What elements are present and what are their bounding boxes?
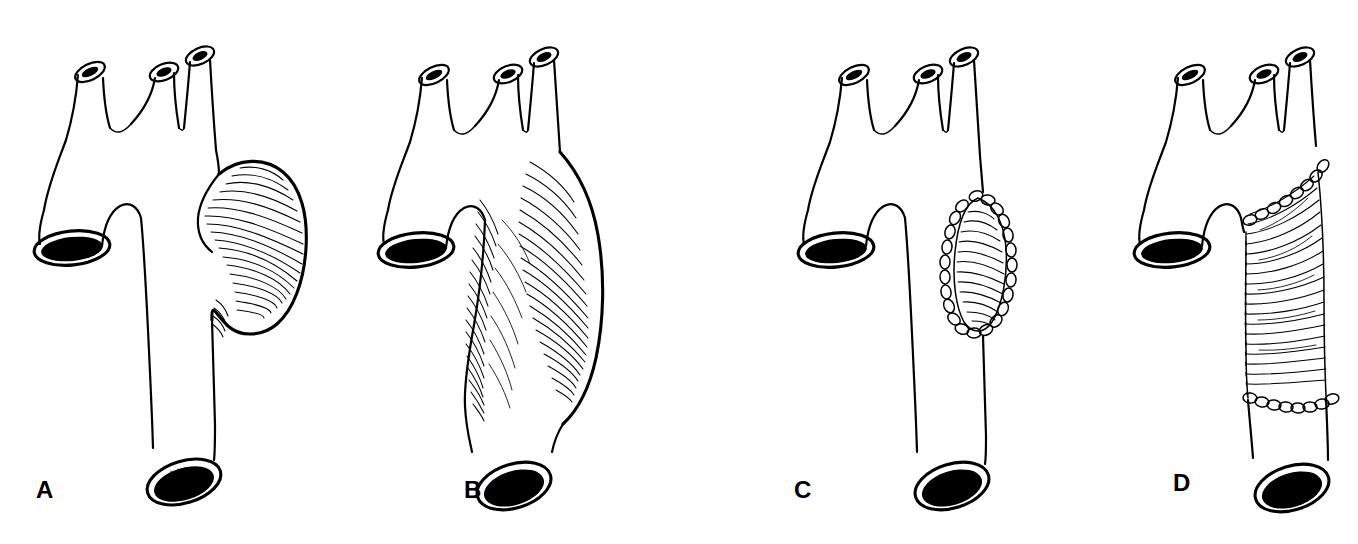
distal-cut-end-b: [471, 454, 557, 518]
panel-a-saccular-aneurysm: A: [0, 0, 340, 544]
panel-label-a: A: [36, 478, 53, 502]
panel-d-tube-graft: D: [1060, 0, 1358, 544]
panel-label-d: D: [1173, 471, 1190, 495]
aorta-outline-d: [1132, 44, 1334, 521]
distal-cut-end-c: [909, 454, 995, 518]
patch-repair-c: [940, 189, 1017, 338]
panel-label-c: C: [794, 478, 811, 502]
panel-b-fusiform-aneurysm: B: [352, 0, 692, 544]
aneurysm-hatching-a: [205, 167, 303, 318]
branch-cut-ends-a: [72, 43, 217, 87]
distal-cut-end-d: [1249, 456, 1335, 520]
branch-cut-ends-c: [836, 44, 981, 90]
saccular-aneurysm-a: [198, 161, 306, 337]
proximal-cut-end-b: [376, 229, 455, 271]
panel-c-patch-repair: C: [712, 0, 1052, 544]
panel-label-b: B: [464, 478, 481, 502]
proximal-cut-end-c: [796, 229, 875, 271]
aorta-outline-c: [796, 44, 994, 519]
tube-graft-d: [1242, 157, 1340, 413]
proximal-cut-end-d: [1132, 229, 1211, 271]
fusiform-aneurysm-shading-b: [466, 162, 588, 421]
figure-aortic-aneurysm-repair: A: [0, 0, 1358, 544]
aorta-outline-b: [376, 44, 602, 519]
branch-cut-ends-d: [1172, 44, 1317, 90]
proximal-cut-end-a: [32, 227, 111, 269]
aorta-outline-a: [32, 43, 226, 514]
branch-cut-ends-b: [416, 44, 561, 90]
